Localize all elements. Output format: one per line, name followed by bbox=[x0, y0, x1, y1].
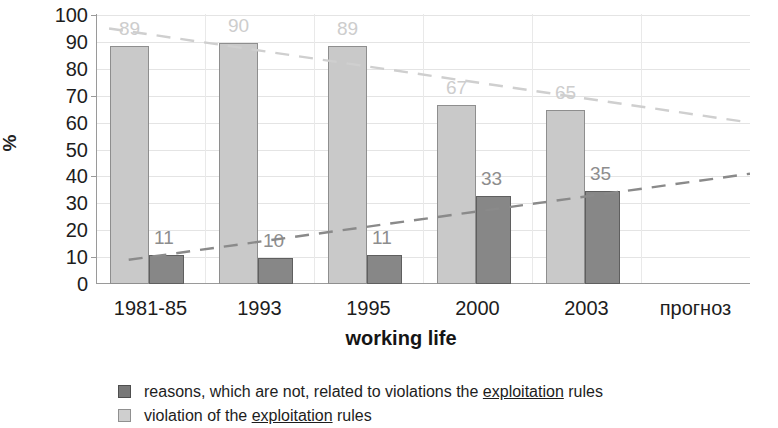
x-tick-label: прогноз bbox=[641, 296, 750, 320]
y-tick-label: 40 bbox=[28, 166, 88, 186]
x-axis-ticks: 1981-851993199520002003прогноз bbox=[96, 296, 778, 324]
y-tick-label: 90 bbox=[28, 32, 88, 52]
legend-item: reasons, which are not, related to viola… bbox=[118, 381, 758, 402]
y-tick-label: 50 bbox=[28, 140, 88, 160]
chart-legend: reasons, which are not, related to viola… bbox=[118, 381, 758, 428]
legend-swatch bbox=[118, 385, 131, 398]
y-tick-label: 80 bbox=[28, 59, 88, 79]
reasons-trend bbox=[129, 174, 750, 260]
x-tick-label: 1993 bbox=[205, 296, 314, 320]
plot-area: 89119010891167336535 bbox=[96, 14, 750, 284]
trendline-group bbox=[96, 14, 750, 284]
legend-label: violation of the exploitation rules bbox=[144, 407, 372, 425]
y-tick-label: 0 bbox=[28, 274, 88, 294]
legend-item: violation of the exploitation rules bbox=[118, 405, 758, 426]
spellcheck-word: exploitation bbox=[483, 383, 564, 400]
legend-label: reasons, which are not, related to viola… bbox=[144, 383, 603, 401]
x-tick-label: 1995 bbox=[314, 296, 423, 320]
y-axis-ticks: 1009080706050403020100 bbox=[28, 0, 88, 428]
y-tick-label: 100 bbox=[28, 5, 88, 25]
y-tick-label: 30 bbox=[28, 193, 88, 213]
spellcheck-word: exploitation bbox=[252, 407, 333, 424]
bar-chart: % 1009080706050403020100 891190108911673… bbox=[0, 0, 778, 428]
violation-trend bbox=[109, 28, 750, 122]
y-tick-label: 70 bbox=[28, 86, 88, 106]
x-axis-title: working life bbox=[96, 327, 706, 350]
x-tick-label: 2003 bbox=[532, 296, 641, 320]
x-tick-label: 1981-85 bbox=[96, 296, 205, 320]
y-tick-label: 60 bbox=[28, 113, 88, 133]
y-tick-label: 20 bbox=[28, 220, 88, 240]
y-tick-label: 10 bbox=[28, 247, 88, 267]
x-tick-label: 2000 bbox=[423, 296, 532, 320]
y-axis-title: % bbox=[0, 135, 21, 152]
legend-swatch bbox=[118, 409, 131, 422]
